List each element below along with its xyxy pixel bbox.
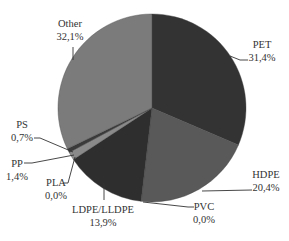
label-ldpe-name: LDPE/LLDPE — [58, 203, 148, 216]
label-pp: PP 1,4% — [4, 157, 30, 183]
leader-line-pp — [24, 155, 74, 163]
label-hdpe: HDPE 20,4% — [244, 168, 288, 194]
label-ps-name: PS — [8, 118, 36, 131]
label-pet: PET 31,4% — [240, 38, 284, 64]
label-ldpe-pct: 13,9% — [58, 216, 148, 229]
label-pla: PLA 0,0% — [40, 176, 72, 202]
label-hdpe-name: HDPE — [244, 168, 288, 181]
label-hdpe-pct: 20,4% — [244, 181, 288, 194]
label-ldpe-lldpe: LDPE/LLDPE 13,9% — [58, 203, 148, 229]
label-pvc: PVC 0,0% — [186, 200, 222, 226]
label-pet-name: PET — [240, 38, 284, 51]
label-pp-pct: 1,4% — [4, 170, 30, 183]
label-other: Other 32,1% — [50, 17, 90, 43]
label-pvc-pct: 0,0% — [186, 213, 222, 226]
label-pla-name: PLA — [40, 176, 72, 189]
label-other-name: Other — [50, 17, 90, 30]
label-pet-pct: 31,4% — [240, 51, 284, 64]
label-ps-pct: 0,7% — [8, 131, 36, 144]
label-pla-pct: 0,0% — [40, 189, 72, 202]
label-pp-name: PP — [4, 157, 30, 170]
label-pvc-name: PVC — [186, 200, 222, 213]
label-other-pct: 32,1% — [50, 30, 90, 43]
label-ps: PS 0,7% — [8, 118, 36, 144]
